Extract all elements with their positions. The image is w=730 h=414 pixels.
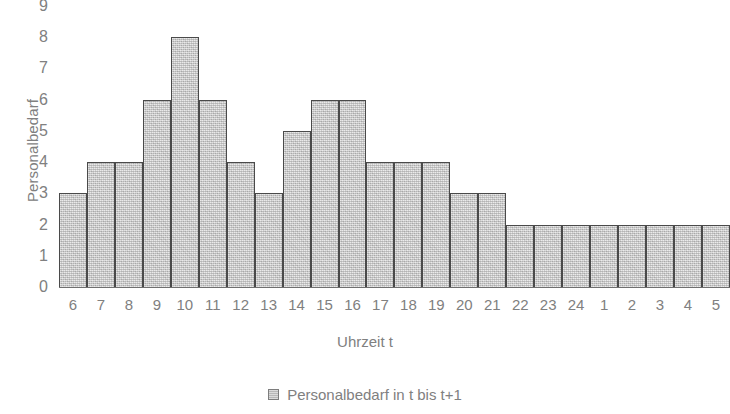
x-axis-tick-label: 11: [199, 292, 227, 318]
y-axis-tick-label: 1: [22, 248, 48, 264]
x-axis-tick-label: 3: [646, 292, 674, 318]
x-axis-tick-label: 16: [339, 292, 367, 318]
bar: [171, 37, 199, 287]
y-axis-tick-label: 7: [22, 60, 48, 76]
bar-slot: [534, 6, 562, 287]
bar: [422, 162, 450, 287]
y-axis-tick-label: 2: [22, 217, 48, 233]
plot-area: [59, 6, 730, 287]
bar: [478, 193, 506, 287]
bar-slot: [171, 6, 199, 287]
legend-label: Personalbedarf in t bis t+1: [287, 386, 462, 403]
x-axis-title: Uhrzeit t: [0, 333, 730, 350]
y-axis-tick-label: 3: [22, 185, 48, 201]
x-axis-tick-label: 23: [534, 292, 562, 318]
bar: [339, 100, 367, 287]
bar: [227, 162, 255, 287]
bar-slot: [478, 6, 506, 287]
bar: [255, 193, 283, 287]
bar: [562, 225, 590, 287]
x-axis-tick-label: 8: [115, 292, 143, 318]
bar: [534, 225, 562, 287]
bar: [283, 131, 311, 287]
bar: [506, 225, 534, 287]
bar: [646, 225, 674, 287]
x-axis-tick-label: 19: [422, 292, 450, 318]
x-axis-tick-label: 21: [478, 292, 506, 318]
x-axis-tick-label: 2: [618, 292, 646, 318]
bar-slot: [506, 6, 534, 287]
bar-slot: [702, 6, 730, 287]
x-axis-tick-label: 17: [366, 292, 394, 318]
x-axis-tick-label: 7: [87, 292, 115, 318]
x-axis-tick-label: 10: [171, 292, 199, 318]
y-axis-tick-label: 9: [22, 0, 48, 14]
bar: [674, 225, 702, 287]
bar-slot: [646, 6, 674, 287]
bar-slot: [143, 6, 171, 287]
bar-slot: [422, 6, 450, 287]
bar-slot: [450, 6, 478, 287]
x-axis-tick-label: 14: [283, 292, 311, 318]
x-axis-tick-label: 18: [394, 292, 422, 318]
x-axis-tick-labels: 678910111213141516171819202122232412345: [59, 292, 730, 318]
x-axis-tick-label: 4: [674, 292, 702, 318]
y-axis-tick-labels: 0123456789: [22, 0, 48, 295]
x-axis-tick-label: 13: [255, 292, 283, 318]
bar-slot: [199, 6, 227, 287]
x-axis-tick-label: 22: [506, 292, 534, 318]
x-axis-tick-label: 15: [311, 292, 339, 318]
y-axis-tick-label: 0: [22, 279, 48, 295]
bar-slot: [87, 6, 115, 287]
y-axis-tick-label: 5: [22, 123, 48, 139]
bar-slot: [618, 6, 646, 287]
y-axis-tick-label: 8: [22, 29, 48, 45]
bar-slot: [59, 6, 87, 287]
bar: [394, 162, 422, 287]
bar-slot: [590, 6, 618, 287]
bar: [311, 100, 339, 287]
bar: [199, 100, 227, 287]
bar-slot: [115, 6, 143, 287]
x-axis-tick-label: 20: [450, 292, 478, 318]
bar-slot: [311, 6, 339, 287]
bar: [366, 162, 394, 287]
legend-swatch-icon: [268, 389, 279, 400]
bar: [702, 225, 730, 287]
x-axis-tick-label: 1: [590, 292, 618, 318]
x-axis-tick-label: 9: [143, 292, 171, 318]
x-axis-tick-label: 24: [562, 292, 590, 318]
bar: [87, 162, 115, 287]
bar: [618, 225, 646, 287]
chart-legend: Personalbedarf in t bis t+1: [0, 386, 730, 403]
x-axis-line: [59, 287, 730, 288]
bar-slot: [394, 6, 422, 287]
bar: [590, 225, 618, 287]
bars-layer: [59, 6, 730, 287]
bar: [450, 193, 478, 287]
x-axis-tick-label: 5: [702, 292, 730, 318]
bar-slot: [674, 6, 702, 287]
legend-entry: Personalbedarf in t bis t+1: [268, 386, 462, 403]
bar: [115, 162, 143, 287]
bar: [59, 193, 87, 287]
bar-chart: Personalbedarf 0123456789 67891011121314…: [0, 0, 730, 414]
bar-slot: [283, 6, 311, 287]
bar-slot: [227, 6, 255, 287]
bar-slot: [339, 6, 367, 287]
bar: [143, 100, 171, 287]
y-axis-tick-label: 4: [22, 154, 48, 170]
x-axis-tick-label: 12: [227, 292, 255, 318]
y-axis-tick-label: 6: [22, 92, 48, 108]
x-axis-tick-label: 6: [59, 292, 87, 318]
bar-slot: [562, 6, 590, 287]
bar-slot: [366, 6, 394, 287]
bar-slot: [255, 6, 283, 287]
